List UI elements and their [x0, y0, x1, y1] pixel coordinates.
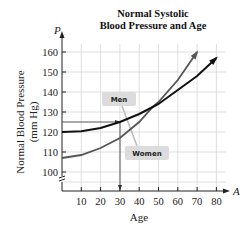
- y-axis-label-line-2: (mm Hg): [27, 101, 40, 142]
- y-tick-label: 100: [42, 167, 58, 178]
- ticks: 1020304050607080100110120130140150160: [42, 47, 221, 208]
- reference-arrow-down-icon: [118, 185, 122, 191]
- axis-break-icon: [59, 176, 65, 181]
- x-tick-label: 50: [153, 196, 164, 207]
- y-axis-label: Normal Blood Pressure (mm Hg): [14, 70, 40, 173]
- x-variable: A: [232, 185, 240, 197]
- x-axis-arrow-icon: [223, 189, 230, 194]
- women-label: Women: [132, 150, 161, 158]
- x-tick-label: 40: [134, 196, 145, 207]
- blood-pressure-chart: Normal Systolic Blood Pressure and Age N…: [0, 0, 248, 232]
- y-tick-label: 120: [42, 127, 58, 138]
- axes: [59, 36, 226, 191]
- y-tick-label: 110: [43, 147, 58, 158]
- y-axis-label-line-1: Normal Blood Pressure: [14, 70, 26, 173]
- x-tick-label: 70: [192, 196, 203, 207]
- y-tick-label: 150: [42, 67, 58, 78]
- y-tick-label: 140: [42, 87, 58, 98]
- x-tick-label: 10: [76, 196, 87, 207]
- y-variable: P: [53, 24, 61, 36]
- chart-title-line-2: Blood Pressure and Age: [100, 20, 207, 31]
- y-tick-label: 160: [42, 47, 58, 58]
- x-tick-label: 20: [95, 196, 106, 207]
- x-tick-label: 80: [211, 196, 222, 207]
- chart-title-line-1: Normal Systolic: [117, 8, 189, 19]
- y-tick-label: 130: [42, 107, 58, 118]
- x-axis-label: Age: [130, 211, 148, 223]
- x-tick-label: 60: [173, 196, 184, 207]
- men-label: Men: [111, 96, 128, 104]
- x-tick-label: 30: [115, 196, 126, 207]
